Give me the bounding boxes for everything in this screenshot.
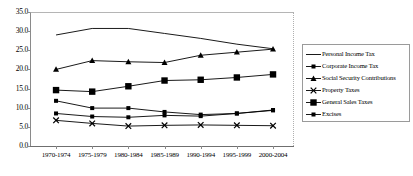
x-axis-tick-mark	[92, 146, 93, 149]
x-axis-tick-mark	[56, 146, 57, 149]
data-point	[125, 83, 131, 89]
x-axis-tick-mark	[128, 146, 129, 149]
legend-marker-icon	[305, 97, 322, 108]
data-point	[53, 87, 59, 93]
x-axis-tick-mark	[237, 146, 238, 149]
data-point	[271, 108, 275, 112]
legend-item-corporate-income-tax[interactable]: Corporate Income Tax	[305, 60, 407, 72]
legend-item-label: General Sales Taxes	[322, 98, 372, 106]
data-point	[90, 106, 94, 110]
series-line	[56, 49, 273, 69]
data-point	[270, 71, 276, 77]
data-point	[90, 115, 94, 119]
x-axis-tick-label: 1975-1979	[78, 151, 107, 160]
x-axis-tick-label: 1995-1999	[223, 151, 252, 160]
data-point	[54, 111, 58, 115]
legend-marker-icon	[305, 49, 322, 60]
legend-item-personal-income-tax[interactable]: Personal Income Tax	[305, 48, 407, 60]
legend-item-label: Personal Income Tax	[322, 50, 375, 58]
chart-legend: Personal Income TaxCorporate Income TaxS…	[302, 44, 410, 122]
legend-marker-icon	[305, 73, 322, 84]
x-axis-tick-mark	[165, 146, 166, 149]
data-point	[89, 88, 95, 94]
legend-item-social-security-contributions[interactable]: Social Security Contributions	[305, 72, 407, 84]
data-point	[235, 111, 239, 115]
series-social-security-contributions	[53, 46, 276, 72]
legend-marker-icon	[305, 85, 322, 96]
x-axis-tick-mark	[273, 146, 274, 149]
x-axis-tick-label: 1985-1989	[150, 151, 179, 160]
legend-item-label: Corporate Income Tax	[322, 62, 378, 70]
legend-item-label: Property Taxes	[322, 86, 359, 94]
series-general-sales-taxes	[53, 71, 276, 95]
data-point	[163, 110, 167, 114]
legend-item-general-sales-taxes[interactable]: General Sales Taxes	[305, 96, 407, 108]
data-point	[163, 113, 167, 117]
series-personal-income-tax	[56, 28, 273, 48]
legend-item-label: Excises	[322, 110, 341, 118]
data-point	[234, 74, 240, 80]
line-chart: 0.05.010.015.020.025.030.035.0 Personal …	[0, 0, 413, 176]
data-point	[199, 114, 203, 118]
legend-marker-icon	[305, 61, 322, 72]
legend-item-label: Social Security Contributions	[322, 74, 396, 82]
x-axis-tick-label: 1980-1984	[114, 151, 143, 160]
data-point	[197, 77, 203, 83]
data-point	[126, 115, 130, 119]
series-line	[56, 28, 273, 48]
data-point	[161, 77, 167, 83]
legend-marker-icon	[305, 109, 322, 120]
data-point	[54, 99, 58, 103]
legend-item-property-taxes[interactable]: Property Taxes	[305, 84, 407, 96]
x-axis-tick-label: 2000-2004	[259, 151, 288, 160]
series-property-taxes	[53, 118, 276, 129]
data-point	[126, 106, 130, 110]
legend-item-excises[interactable]: Excises	[305, 108, 407, 120]
x-axis-tick-label: 1990-1994	[186, 151, 215, 160]
x-axis-tick-label: 1970-1974	[42, 151, 71, 160]
x-axis-tick-mark	[201, 146, 202, 149]
